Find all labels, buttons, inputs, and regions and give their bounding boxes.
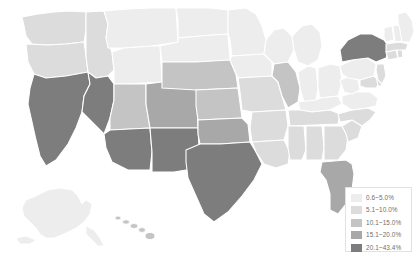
state-oklahoma bbox=[198, 118, 250, 144]
legend-item-4: 20.1~43.4% bbox=[351, 242, 408, 253]
state-indiana bbox=[298, 66, 318, 102]
legend-label-2: 10.1~15.0% bbox=[366, 219, 401, 227]
state-california bbox=[28, 72, 90, 166]
state-new-york bbox=[340, 34, 390, 62]
state-texas bbox=[186, 142, 262, 222]
state-tennessee bbox=[288, 110, 340, 126]
state-utah bbox=[110, 84, 150, 130]
legend-label-3: 15.1~20.0% bbox=[366, 231, 401, 239]
legend-item-3: 15.1~20.0% bbox=[351, 230, 408, 241]
legend-label-4: 20.1~43.4% bbox=[366, 244, 401, 252]
legend-swatch-2 bbox=[351, 219, 362, 227]
state-alabama bbox=[306, 126, 324, 160]
state-arizona bbox=[104, 128, 152, 170]
legend-label-1: 5.1~10.0% bbox=[366, 206, 398, 214]
state-wisconsin bbox=[264, 28, 294, 64]
legend-item-0: 0.6~5.0% bbox=[351, 192, 408, 203]
legend-label-0: 0.6~5.0% bbox=[366, 194, 394, 202]
state-arkansas bbox=[250, 110, 288, 142]
legend-swatch-3 bbox=[351, 231, 362, 239]
choropleth-map-figure: 0.6~5.0% 5.1~10.0% 10.1~15.0% 15.1~20.0%… bbox=[0, 0, 418, 270]
state-nebraska bbox=[162, 60, 238, 90]
state-hawaii bbox=[115, 216, 155, 240]
state-ohio bbox=[318, 64, 342, 98]
state-minnesota bbox=[228, 8, 266, 56]
state-virginia bbox=[342, 92, 378, 110]
legend-swatch-4 bbox=[351, 244, 362, 252]
state-michigan bbox=[292, 24, 322, 66]
legend-swatch-1 bbox=[351, 206, 362, 214]
legend-item-2: 10.1~15.0% bbox=[351, 217, 408, 228]
state-mississippi bbox=[288, 126, 306, 160]
state-oregon bbox=[26, 42, 88, 78]
state-iowa bbox=[230, 54, 272, 78]
state-vermont bbox=[384, 26, 394, 42]
legend-swatch-0 bbox=[351, 194, 362, 202]
state-north-carolina bbox=[338, 108, 376, 126]
state-washington bbox=[22, 11, 86, 45]
state-kansas bbox=[196, 88, 242, 120]
alaska-panhandle bbox=[86, 226, 104, 246]
state-alaska bbox=[22, 188, 92, 238]
map-legend: 0.6~5.0% 5.1~10.0% 10.1~15.0% 15.1~20.0%… bbox=[345, 187, 412, 252]
state-wyoming bbox=[112, 46, 162, 84]
state-north-dakota bbox=[176, 8, 228, 38]
state-massachusetts bbox=[386, 42, 408, 52]
legend-item-1: 5.1~10.0% bbox=[351, 205, 408, 216]
alaska-aleutian-islands bbox=[16, 236, 36, 244]
state-montana bbox=[104, 8, 178, 48]
